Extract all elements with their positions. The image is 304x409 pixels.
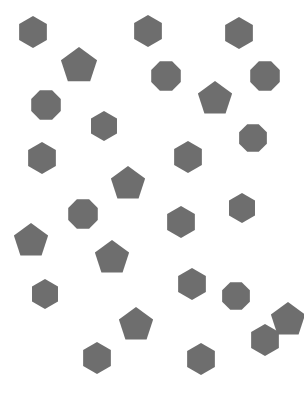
shape-octagon	[31, 90, 61, 120]
shape-octagon	[222, 282, 250, 310]
shape-scene-canvas	[0, 0, 304, 409]
shape-octagon	[151, 61, 181, 91]
shape-octagon	[239, 124, 267, 152]
shape-octagon	[68, 199, 98, 229]
shape-octagon	[250, 61, 280, 91]
shape-scene-svg	[0, 0, 304, 409]
